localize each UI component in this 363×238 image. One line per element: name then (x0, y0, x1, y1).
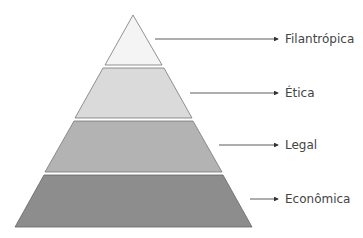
label-filantropica: Filantrópica (285, 32, 354, 46)
pyramid-level-economica (15, 175, 252, 227)
label-etica: Ética (285, 86, 315, 100)
pyramid-level-legal (45, 121, 222, 172)
label-legal: Legal (285, 138, 317, 152)
pyramid-level-etica (75, 68, 192, 118)
pyramid-level-filantropica (105, 15, 162, 65)
label-economica: Econômica (285, 192, 350, 206)
